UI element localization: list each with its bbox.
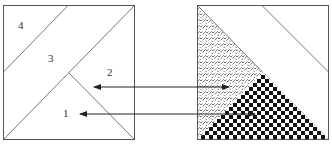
label-region-4: 4 [18, 20, 24, 31]
label-region-1: 1 [63, 108, 69, 119]
tangram-mapping-diagram [0, 0, 332, 145]
label-region-3: 3 [48, 53, 54, 64]
label-region-2: 2 [107, 67, 113, 78]
right-square [198, 6, 329, 140]
